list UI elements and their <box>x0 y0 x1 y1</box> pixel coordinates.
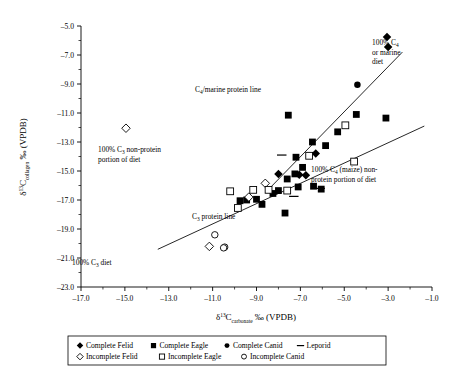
legend-label: Incomplete Canid <box>250 352 304 361</box>
data-point-open-square <box>159 354 164 359</box>
data-point-filled-square <box>151 343 156 348</box>
x-tick-label: –11.0 <box>203 294 221 303</box>
data-points <box>122 33 393 251</box>
data-point-filled-diamond <box>77 342 84 349</box>
y-tick-label: –5.0 <box>60 22 74 31</box>
data-point-open-square <box>306 152 313 159</box>
data-point-filled-circle <box>225 343 230 348</box>
data-point-filled-square <box>293 154 300 161</box>
series-complete-eagle <box>237 111 390 216</box>
data-point-filled-square <box>282 210 289 217</box>
chart-container: –5.0–7.0–9.0–11.0–13.0–15.0–17.0–19.0–21… <box>0 0 453 377</box>
y-axis-ticks: –5.0–7.0–9.0–11.0–13.0–15.0–17.0–19.0–21… <box>56 22 81 292</box>
y-tick-label: –11.0 <box>56 109 74 118</box>
data-point-filled-diamond <box>274 170 283 179</box>
data-point-open-square <box>250 186 257 193</box>
data-point-open-circle <box>242 354 247 359</box>
data-point-open-diamond <box>205 242 214 251</box>
data-point-filled-square <box>285 112 292 119</box>
x-tick-label: –13.0 <box>159 294 177 303</box>
legend-label: Incomplete Eagle <box>168 352 222 361</box>
y-tick-label: –17.0 <box>56 196 74 205</box>
data-point-open-square <box>284 187 291 194</box>
y-axis-title: δ13Ccollagen ‰ (VPDB) <box>18 118 30 195</box>
data-point-open-diamond <box>77 353 84 360</box>
y-tick-label: –9.0 <box>60 80 74 89</box>
data-point-filled-square <box>383 115 390 122</box>
legend: Complete FelidComplete EagleComplete Can… <box>77 341 331 361</box>
data-point-filled-square <box>259 201 266 208</box>
c3-protein-line-label: C3 protein line <box>192 212 236 222</box>
pct100-c3-nonprotein-label: 100% C3 non-protein portion of diet <box>98 145 163 164</box>
legend-label: Complete Felid <box>86 341 133 350</box>
pct100-c3-diet-label: 100% C3 diet <box>72 258 113 268</box>
y-tick-label: –19.0 <box>56 225 74 234</box>
data-point-filled-square <box>275 187 282 194</box>
data-point-open-square <box>265 186 272 193</box>
data-point-filled-square <box>318 186 325 193</box>
data-point-filled-square <box>322 142 329 149</box>
data-point-filled-diamond <box>302 171 311 180</box>
y-tick-label: –13.0 <box>56 138 74 147</box>
x-tick-label: –7.0 <box>293 294 307 303</box>
legend-label: Complete Canid <box>233 341 283 350</box>
data-point-filled-square <box>295 184 302 191</box>
data-point-open-square <box>351 158 358 165</box>
scatter-plot: –5.0–7.0–9.0–11.0–13.0–15.0–17.0–19.0–21… <box>0 0 453 377</box>
x-tick-label: –15.0 <box>115 294 133 303</box>
data-point-open-circle <box>220 245 226 251</box>
pct100-c4-maize-nonprotein-label: 100% C4 (maize) non- protein portion of … <box>311 165 379 184</box>
legend-label: Leporid <box>307 341 331 350</box>
data-point-filled-square <box>237 197 244 204</box>
x-tick-label: –5.0 <box>337 294 351 303</box>
y-tick-label: –7.0 <box>60 51 74 60</box>
x-tick-label: –9.0 <box>249 294 263 303</box>
pct100-c4-marine-diet-label: 100% C4 or marine diet <box>372 38 402 66</box>
data-point-filled-square <box>309 139 316 146</box>
y-tick-label: –15.0 <box>56 167 74 176</box>
legend-label: Complete Eagle <box>160 341 209 350</box>
x-tick-label: –3.0 <box>380 294 394 303</box>
data-point-open-square <box>234 205 241 212</box>
x-tick-label: –1.0 <box>424 294 438 303</box>
series-complete-canid <box>354 81 360 87</box>
data-point-filled-circle <box>354 81 360 87</box>
series-incomplete-canid <box>212 232 228 252</box>
data-point-filled-square <box>353 111 360 118</box>
data-point-filled-square <box>284 176 291 183</box>
data-point-filled-square <box>291 171 298 178</box>
legend-label: Incomplete Felid <box>86 352 138 361</box>
data-point-open-square <box>227 188 234 195</box>
x-tick-label: –17.0 <box>71 294 89 303</box>
y-tick-label: –23.0 <box>56 283 74 292</box>
data-point-open-diamond <box>122 124 131 133</box>
data-point-open-square <box>342 122 349 129</box>
c4-marine-protein-line-label: C4/marine protein line <box>195 85 262 95</box>
data-point-open-circle <box>212 232 218 238</box>
x-axis-ticks: –17.0–15.0–13.0–11.0–9.0–7.0–5.0–3.0–1.0 <box>71 287 438 303</box>
x-axis-title: δ13Ccarbonate ‰ (VPDB) <box>216 312 296 324</box>
data-point-filled-square <box>299 164 306 171</box>
data-point-filled-square <box>334 128 341 135</box>
